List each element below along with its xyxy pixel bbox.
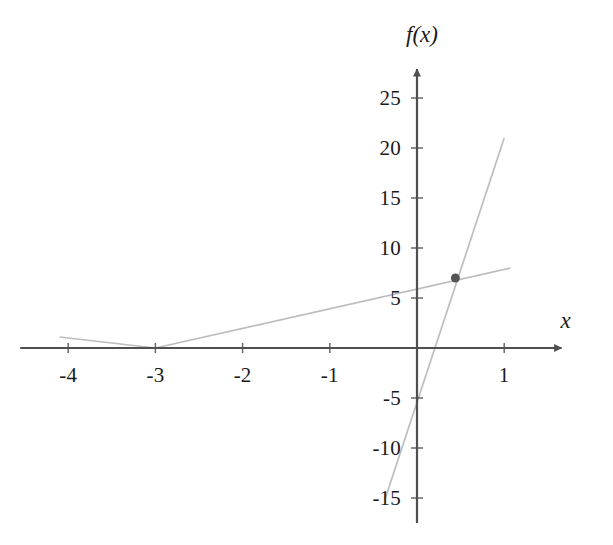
x-tick-label: -3 [146,363,164,388]
y-tick-label: 10 [0,236,401,261]
series-steep-line [385,138,504,500]
figure-canvas: f(x) x -4-3-2-11252015105-5-10-15 [0,0,613,545]
intersection-point [451,274,460,283]
graph-svg [0,0,613,545]
x-tick-label: -1 [321,363,339,388]
x-tick-label: 1 [499,363,510,388]
y-tick-label: 15 [0,186,401,211]
y-axis-label: f(x) [406,22,438,48]
y-tick-label: -5 [0,386,401,411]
y-tick-label: -10 [0,436,401,461]
y-tick-label: -15 [0,486,401,511]
x-tick-label: -2 [234,363,252,388]
x-axis-label: x [560,308,570,334]
y-tick-label: 25 [0,86,401,111]
x-tick-label: -4 [59,363,77,388]
point-layer [451,274,460,283]
y-tick-label: 5 [0,286,401,311]
y-tick-label: 20 [0,136,401,161]
